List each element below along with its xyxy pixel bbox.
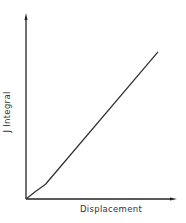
y-axis-label: J Integral bbox=[2, 91, 12, 132]
chart: Displacement J Integral bbox=[0, 0, 186, 223]
data-line bbox=[26, 52, 158, 199]
y-axis-arrow-icon bbox=[25, 13, 28, 20]
x-axis-label: Displacement bbox=[80, 204, 142, 214]
chart-plot bbox=[0, 0, 186, 223]
x-axis-arrow-icon bbox=[170, 198, 177, 201]
